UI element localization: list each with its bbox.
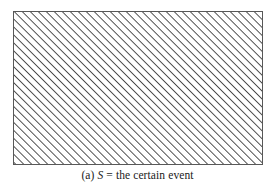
caption-equals: = [106,169,113,181]
figure-caption: (a) S = the certain event [0,168,275,183]
caption-label: (a) [81,169,94,181]
figure-container: (a) S = the certain event [0,0,275,190]
diagonal-hatch-fill [14,12,262,164]
sample-space-rectangle [13,11,263,165]
caption-description: the certain event [116,169,194,181]
